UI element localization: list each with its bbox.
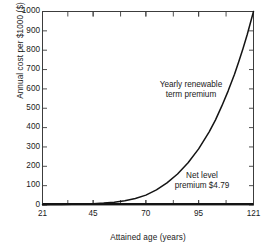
annotation-line: Yearly renewable [139,80,243,90]
y-tick-label: 0 [14,201,40,209]
x-tick-label: 95 [179,210,219,218]
y-tick-label: 800 [14,46,40,54]
annotation-line: term premium [139,90,243,100]
x-axis-title: Attained age (years) [42,233,254,242]
y-tick-label: 500 [14,104,40,112]
x-tick-label: 70 [126,210,166,218]
annotation-line: Net level [152,171,252,181]
y-tick-label: 300 [14,143,40,151]
y-tick-label: 400 [14,123,40,131]
x-tick-label: 45 [73,210,113,218]
annotation-net-level-premium: Net level premium $4.79 [152,171,252,191]
y-tick-label: 200 [14,162,40,170]
chart-figure: Annual cost per $1000 ($) Attained age (… [0,0,271,252]
y-tick-label: 600 [14,85,40,93]
y-tick-label: 1000 [14,7,40,15]
annotation-yearly-renewable-term-premium: Yearly renewable term premium [139,80,243,100]
y-tick-label: 100 [14,181,40,189]
y-tick-label: 700 [14,65,40,73]
x-tick-label: 21 [23,210,63,218]
annotation-line: premium $4.79 [152,181,252,191]
y-tick-label: 900 [14,27,40,35]
x-tick-label: 121 [234,210,272,218]
